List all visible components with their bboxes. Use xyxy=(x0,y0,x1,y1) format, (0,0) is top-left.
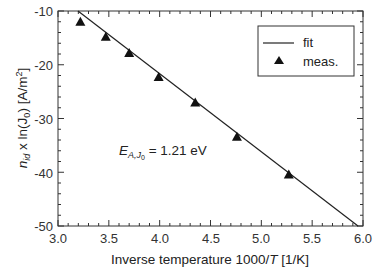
activation-energy-annotation: EA,J0 = 1.21 eV xyxy=(119,143,207,161)
x-tick-label: 4.0 xyxy=(151,231,169,246)
y-tick-label: -30 xyxy=(34,112,53,127)
x-tick-label: 5.5 xyxy=(303,231,321,246)
legend-label-fit: fit xyxy=(303,35,314,50)
x-tick-labels: 3.0 3.5 4.0 4.5 5.0 5.5 6.0 xyxy=(49,231,372,246)
chart: 3.0 3.5 4.0 4.5 5.0 5.5 6.0 -10 -20 -30 … xyxy=(0,0,378,274)
x-axis-title: Inverse temperature 1000/T [1/K] xyxy=(111,252,309,267)
x-tick-label: 5.0 xyxy=(252,231,270,246)
y-tick-labels: -10 -20 -30 -40 -50 xyxy=(34,4,53,234)
legend-label-meas: meas. xyxy=(303,54,338,69)
y-axis-title: nid x ln(J0) [A/m2] xyxy=(14,68,32,168)
x-tick-label: 3.5 xyxy=(100,231,118,246)
triangle-marker-icon xyxy=(101,32,111,41)
y-tick-label: -50 xyxy=(34,219,53,234)
y-tick-label: -10 xyxy=(34,4,53,19)
y-tick-label: -20 xyxy=(34,58,53,73)
x-tick-label: 6.0 xyxy=(354,231,372,246)
triangle-marker-icon xyxy=(154,72,164,81)
legend: fit meas. xyxy=(258,26,354,76)
y-tick-label: -40 xyxy=(34,166,53,181)
triangle-marker-icon xyxy=(75,17,85,26)
x-tick-label: 4.5 xyxy=(202,231,220,246)
